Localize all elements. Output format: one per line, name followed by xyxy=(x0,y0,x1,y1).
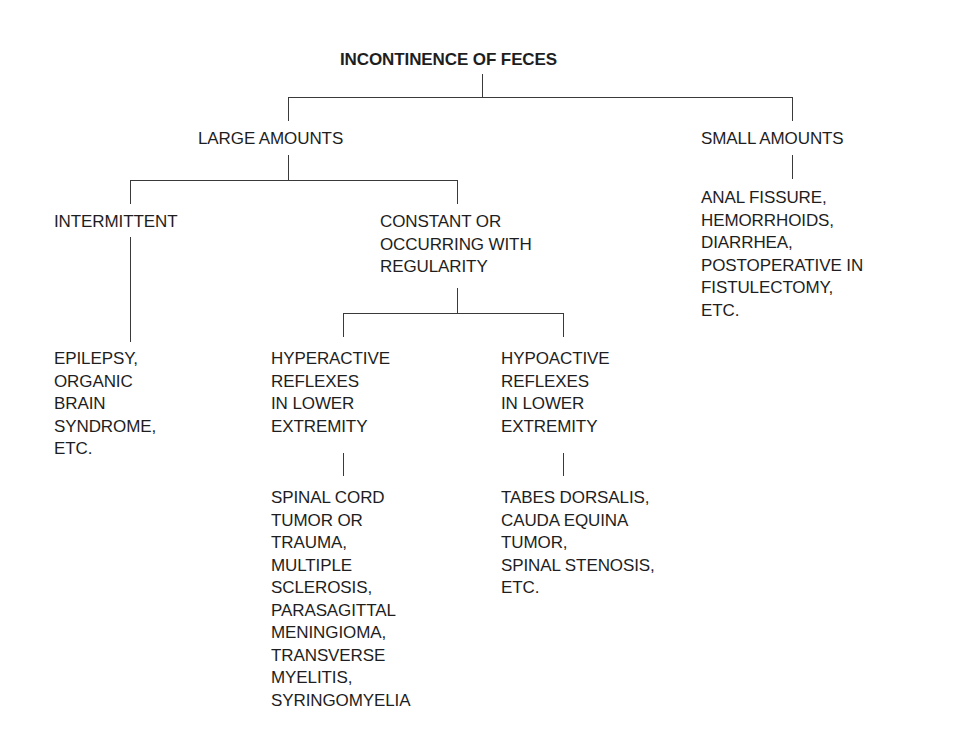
node-intermittent: INTERMITTENT xyxy=(54,211,177,234)
node-hypoactive-reflexes: HYPOACTIVE REFLEXES IN LOWER EXTREMITY xyxy=(501,348,610,438)
connector-level3-bar xyxy=(343,313,564,314)
node-hyperactive-causes: SPINAL CORD TUMOR OR TRAUMA, MULTIPLE SC… xyxy=(271,487,410,712)
connector-small-to-causes xyxy=(792,155,793,179)
connector-to-small-amounts xyxy=(792,97,793,121)
node-small-amounts-causes: ANAL FISSURE, HEMORRHOIDS, DIARRHEA, POS… xyxy=(701,187,863,322)
connector-to-hypoactive xyxy=(563,313,564,337)
root-node-incontinence-of-feces: INCONTINENCE OF FECES xyxy=(340,49,557,72)
connector-level2-bar xyxy=(130,180,458,181)
connector-to-constant xyxy=(457,180,458,204)
connector-constant-stub xyxy=(457,288,458,313)
connector-hyperactive-to-causes xyxy=(343,453,344,476)
connector-root-stub xyxy=(482,74,483,98)
connector-to-large-amounts xyxy=(288,97,289,121)
connector-hypoactive-to-causes xyxy=(563,453,564,476)
node-hypoactive-causes: TABES DORSALIS, CAUDA EQUINA TUMOR, SPIN… xyxy=(501,487,655,600)
node-hyperactive-reflexes: HYPERACTIVE REFLEXES IN LOWER EXTREMITY xyxy=(271,348,390,438)
node-constant-or-regular: CONSTANT OR OCCURRING WITH REGULARITY xyxy=(380,211,532,279)
node-large-amounts: LARGE AMOUNTS xyxy=(198,128,343,151)
node-small-amounts: SMALL AMOUNTS xyxy=(701,128,844,151)
connector-intermittent-to-causes xyxy=(130,237,131,342)
connector-level1-bar xyxy=(288,97,793,98)
node-intermittent-causes: EPILEPSY, ORGANIC BRAIN SYNDROME, ETC. xyxy=(54,348,156,461)
connector-to-intermittent xyxy=(130,180,131,204)
connector-to-hyperactive xyxy=(343,313,344,337)
connector-large-stub xyxy=(288,155,289,180)
